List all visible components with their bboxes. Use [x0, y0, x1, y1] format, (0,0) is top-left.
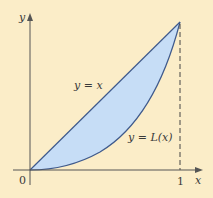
- y-axis-label: y: [18, 11, 26, 24]
- x-tick-1-label: 1: [177, 175, 184, 188]
- line-label: y = x: [73, 79, 103, 92]
- x-axis-arrow-icon: [195, 167, 203, 173]
- curve-label: y = L(x): [127, 131, 173, 144]
- origin-label: 0: [19, 174, 26, 187]
- y-axis-arrow-icon: [27, 13, 33, 21]
- plot-canvas: y x 0 1 y = x y = L(x): [0, 0, 213, 198]
- lorenz-curve-figure: y x 0 1 y = x y = L(x): [0, 0, 213, 198]
- x-axis-label: x: [195, 174, 202, 187]
